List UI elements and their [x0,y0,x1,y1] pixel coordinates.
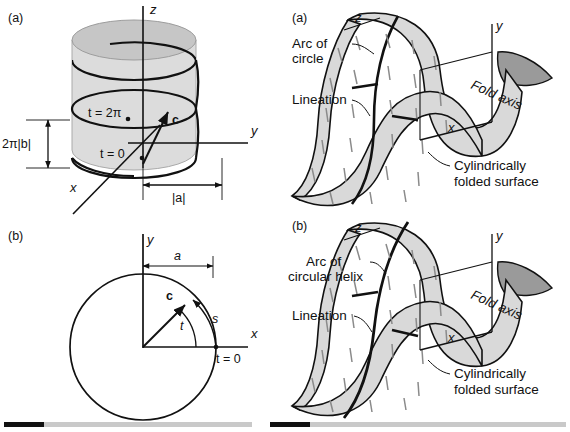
panel-left-b: (b) y x a c t s t = 0 [8,229,258,420]
right-b-arc-label-line2: circular helix [288,269,363,284]
right-a-axis-y-label: y [495,18,504,33]
panel-left-a-letter: (a) [8,11,23,25]
panel-right-a: (a) [292,10,552,205]
right-b-arc-label-line1: Arc of [306,254,342,269]
panel-left-b-letter: (b) [8,229,23,243]
right-a-surface-label-line1: Cylindrically [454,158,526,173]
label-radius-abs-a: |a| [172,191,185,205]
label-t-zero: t = 0 [100,147,125,161]
axis-x-label: x [69,180,77,195]
label-pitch: 2π|b| [2,137,31,151]
panel-right-b-letter: (b) [292,219,307,233]
right-b-axis-z-label: z [354,220,362,235]
circle-label-t-zero: t = 0 [216,352,241,366]
right-a-lineation-label: Lineation [292,92,347,107]
right-b-surface-label-line2: folded surface [454,382,539,397]
divider-left-dark-segment [4,422,44,427]
circle-vector-c-arrow [143,305,185,347]
bottom-divider-right [270,422,566,427]
lineation-bold-a-1 [352,84,378,88]
helix-t2pi-point [126,117,131,122]
bottom-divider-left [4,422,252,427]
label-t-two-pi: t = 2π [88,106,122,120]
right-a-arc-label-line2: circle [292,51,324,66]
panel-right-a-letter: (a) [292,11,307,25]
axis-z-label: z [149,2,157,17]
right-a-arc-label-line1: Arc of [292,36,328,51]
right-a-axis-x-label: x [447,120,455,135]
circle-t-zero-point [214,345,219,350]
circle-vector-c-label: c [166,289,173,303]
circle-label-a: a [174,249,181,263]
divider-right-dark-segment [270,422,310,427]
arc-length-s-label: s [212,312,218,326]
right-b-axis-y-label: y [495,228,504,243]
lineation-bold-b-1 [352,292,378,296]
right-b-axis-x-label: x [447,330,455,345]
divider-right-light-segment [310,422,566,427]
right-a-axis-z-label: z [354,10,362,25]
circle-axis-x-label: x [250,326,258,341]
divider-left-light-segment [44,422,252,427]
helix-origin-point [140,156,145,161]
right-b-lineation-leader [354,316,372,332]
figure-root: (a) z y x c t = [0,0,570,432]
circle-axis-y-label: y [146,232,155,247]
right-b-surface-leader [428,360,450,374]
right-b-arc-leader [370,262,386,274]
right-a-surface-label-line2: folded surface [454,174,539,189]
cylinder-top-ellipse [72,20,196,60]
right-a-surface-leader [428,152,450,166]
panel-left-a: (a) z y x c t = [2,2,259,214]
right-b-lineation-label: Lineation [292,308,347,323]
panel-right-b: (b) [288,219,552,418]
axis-y-label: y [250,123,259,138]
vector-c-label: c [172,113,179,127]
right-a-lineation-leader [352,100,370,116]
right-b-surface-label-line1: Cylindrically [454,366,526,381]
right-a-arc-leader [352,44,374,54]
figure-canvas: (a) z y x c t = [0,0,570,432]
angle-label-t: t [180,319,184,333]
